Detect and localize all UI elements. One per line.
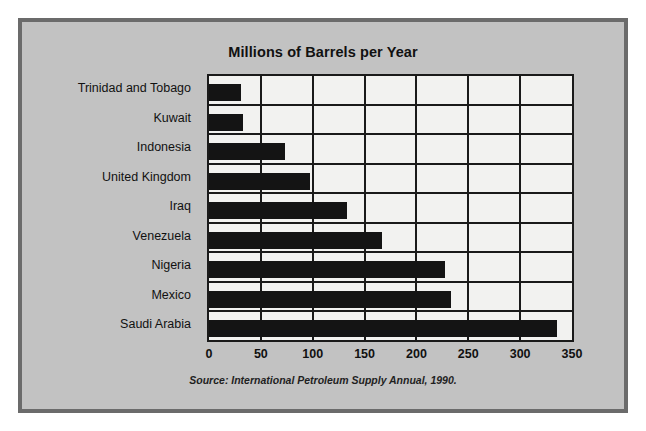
x-tick-label-150: 150 [354,347,375,361]
category-label-mexico: Mexico [22,281,200,311]
bar-row [209,135,572,165]
x-tick-label-350: 350 [562,347,583,361]
x-tick-label-250: 250 [458,347,479,361]
category-label-indonesia: Indonesia [22,133,200,163]
bar-row [209,76,572,106]
bar-row [209,194,572,224]
bar-kuwait [209,114,243,131]
x-axis-tick-labels: 050100150200250300350 [207,347,574,365]
bar-row [209,312,572,342]
bar-row [209,106,572,136]
source-note: Source: International Petroleum Supply A… [22,374,624,386]
category-label-kuwait: Kuwait [22,104,200,134]
bar-indonesia [209,143,285,160]
category-label-iraq: Iraq [22,192,200,222]
bar-nigeria [209,261,445,278]
plot-area [207,74,574,342]
x-tick-label-200: 200 [406,347,427,361]
category-label-trinidad-and-tobago: Trinidad and Tobago [22,74,200,104]
bar-row [209,283,572,313]
bar-saudi-arabia [209,320,557,337]
bar-trinidad-and-tobago [209,84,241,101]
chart-title: Millions of Barrels per Year [22,44,624,60]
figure-frame: Millions of Barrels per Year Trinidad an… [18,18,628,413]
bar-row [209,253,572,283]
x-tick-label-0: 0 [206,347,213,361]
category-label-united-kingdom: United Kingdom [22,163,200,193]
category-label-saudi-arabia: Saudi Arabia [22,310,200,340]
category-label-venezuela: Venezuela [22,222,200,252]
bar-row [209,224,572,254]
x-tick-label-50: 50 [254,347,268,361]
x-tick-label-300: 300 [510,347,531,361]
bar-united-kingdom [209,173,310,190]
bar-venezuela [209,232,382,249]
category-label-nigeria: Nigeria [22,251,200,281]
bar-series [209,76,572,340]
category-axis-labels: Trinidad and TobagoKuwaitIndonesiaUnited… [22,74,200,342]
bar-mexico [209,291,451,308]
bar-row [209,165,572,195]
x-tick-label-100: 100 [302,347,323,361]
bar-iraq [209,202,347,219]
